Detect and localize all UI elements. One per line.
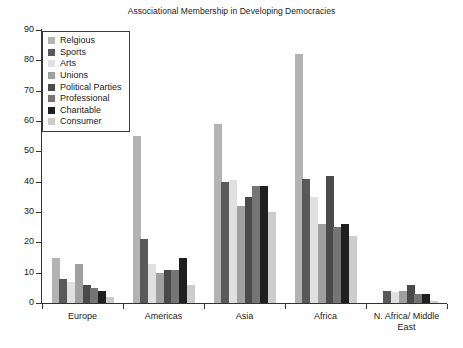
x-axis-tick bbox=[42, 304, 43, 309]
legend-item-label: Sports bbox=[60, 48, 86, 57]
legend-item[interactable]: Consumer bbox=[48, 116, 122, 128]
legend-item[interactable]: Charitable bbox=[48, 105, 122, 117]
x-axis-tick bbox=[204, 304, 205, 309]
bar bbox=[430, 301, 438, 303]
x-axis-tick-label: Americas bbox=[123, 311, 204, 322]
legend-swatch-icon bbox=[48, 49, 55, 56]
bar bbox=[106, 297, 114, 303]
legend-swatch-icon bbox=[48, 84, 55, 91]
y-axis-tick-label: 80 bbox=[4, 55, 34, 64]
legend-item-label: Professional bbox=[60, 94, 110, 103]
y-axis-tick-label: 50 bbox=[4, 146, 34, 155]
legend-swatch-icon bbox=[48, 72, 55, 79]
y-axis-tick-label: 10 bbox=[4, 268, 34, 277]
x-axis-tick bbox=[285, 304, 286, 309]
chart-legend: RelgiousSportsArtsUnionsPolitical Partie… bbox=[42, 31, 130, 132]
x-axis-tick-label: Asia bbox=[204, 311, 285, 322]
x-axis-label-line: N. Africa/ Middle bbox=[366, 311, 447, 322]
y-axis-tick-label: 90 bbox=[4, 25, 34, 34]
bar bbox=[268, 212, 276, 303]
legend-swatch-icon bbox=[48, 37, 55, 44]
legend-item-label: Political Parties bbox=[60, 83, 122, 92]
legend-swatch-icon bbox=[48, 107, 55, 114]
bar bbox=[187, 285, 195, 303]
y-axis-tick-label: 30 bbox=[4, 207, 34, 216]
legend-item-label: Unions bbox=[60, 71, 88, 80]
x-axis-label-line: Asia bbox=[204, 311, 285, 322]
legend-item-label: Arts bbox=[60, 59, 76, 68]
y-axis-tick-label: 40 bbox=[4, 177, 34, 186]
legend-item-label: Charitable bbox=[60, 106, 101, 115]
x-axis-label-line: Americas bbox=[123, 311, 204, 322]
y-axis-tick-label: 0 bbox=[4, 298, 34, 307]
y-axis-tick-label: 70 bbox=[4, 86, 34, 95]
x-axis-tick bbox=[447, 304, 448, 309]
bar-group bbox=[295, 30, 357, 303]
chart-title: Associational Membership in Developing D… bbox=[0, 6, 463, 16]
x-axis-line bbox=[41, 303, 447, 304]
x-axis-tick-label: Africa bbox=[285, 311, 366, 322]
legend-item-label: Consumer bbox=[60, 117, 102, 126]
bar-group bbox=[214, 30, 276, 303]
x-axis-tick-label: Europe bbox=[42, 311, 123, 322]
x-axis-tick-label: N. Africa/ MiddleEast bbox=[366, 311, 447, 333]
y-axis-tick-label: 60 bbox=[4, 116, 34, 125]
legend-item[interactable]: Political Parties bbox=[48, 81, 122, 93]
legend-swatch-icon bbox=[48, 60, 55, 67]
legend-item-label: Relgious bbox=[60, 36, 95, 45]
bar-group bbox=[133, 30, 195, 303]
legend-item[interactable]: Relgious bbox=[48, 35, 122, 47]
bar bbox=[349, 236, 357, 303]
legend-swatch-icon bbox=[48, 118, 55, 125]
y-axis-tick-label: 20 bbox=[4, 237, 34, 246]
x-axis-label-line: Africa bbox=[285, 311, 366, 322]
x-axis-tick bbox=[366, 304, 367, 309]
legend-item[interactable]: Unions bbox=[48, 70, 122, 82]
legend-item[interactable]: Arts bbox=[48, 58, 122, 70]
x-axis-label-line: East bbox=[366, 322, 447, 333]
legend-item[interactable]: Professional bbox=[48, 93, 122, 105]
bar-group bbox=[376, 30, 438, 303]
legend-item[interactable]: Sports bbox=[48, 47, 122, 59]
legend-swatch-icon bbox=[48, 95, 55, 102]
x-axis-label-line: Europe bbox=[42, 311, 123, 322]
y-axis-labels: 0102030405060708090 bbox=[0, 0, 34, 348]
x-axis-tick bbox=[123, 304, 124, 309]
bar-chart: Associational Membership in Developing D… bbox=[0, 0, 463, 348]
